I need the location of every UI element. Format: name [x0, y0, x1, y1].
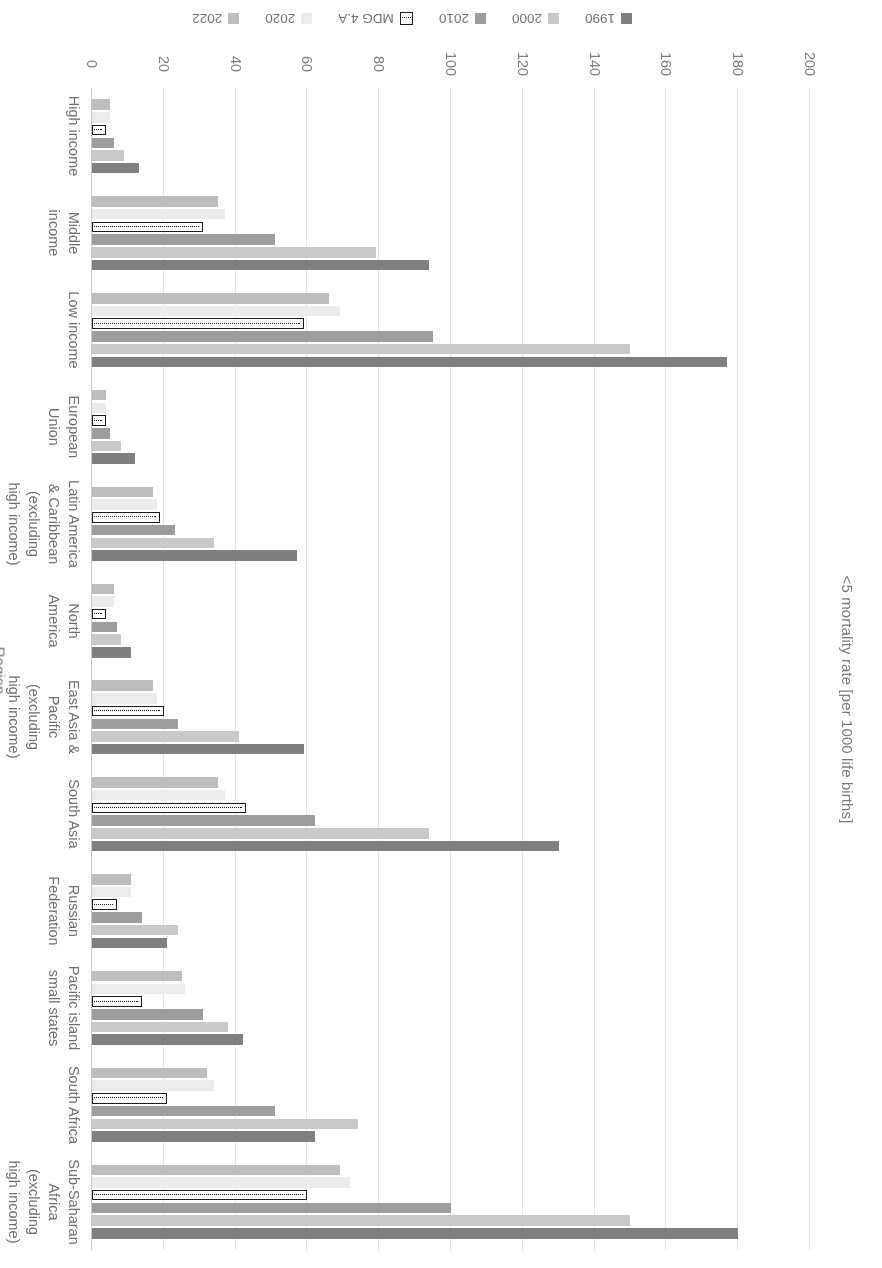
mdg-target-marker: [92, 415, 106, 426]
gridline: [450, 88, 451, 1250]
chart-canvas: <5 mortality rate [per 1000 life births]…: [0, 0, 882, 1268]
bar-2022: [92, 971, 182, 982]
mdg-dotted-line: [94, 710, 160, 711]
bar-1990: [92, 260, 429, 271]
legend-swatch-icon: [301, 13, 312, 24]
bar-2022: [92, 1068, 207, 1079]
legend-swatch-icon: [228, 13, 239, 24]
legend-item-2000[interactable]: 2000: [512, 11, 559, 26]
bar-2022: [92, 99, 110, 110]
mdg-target-marker: [92, 222, 203, 233]
bar-2000: [92, 731, 239, 742]
chart-legend: 199020002010MDG 4.A20202022: [192, 11, 632, 26]
bar-2022: [92, 680, 153, 691]
mdg-target-marker: [92, 1093, 167, 1104]
legend-label: 2020: [265, 11, 295, 26]
mdg-target-marker: [92, 609, 106, 620]
bar-2020: [92, 306, 340, 317]
bar-2000: [92, 1022, 228, 1033]
bar-2010: [92, 525, 175, 536]
bar-2010: [92, 234, 275, 245]
bar-2020: [92, 499, 157, 510]
rotated-chart-stage: <5 mortality rate [per 1000 life births]…: [0, 0, 882, 1268]
mdg-dotted-line: [94, 1097, 163, 1098]
bar-2020: [92, 1177, 350, 1188]
legend-item-1990[interactable]: 1990: [585, 11, 632, 26]
mdg-dotted-line: [94, 420, 102, 421]
mdg-target-marker: [92, 706, 164, 717]
gridline: [737, 88, 738, 1250]
legend-label: 2010: [439, 11, 469, 26]
bar-1990: [92, 1228, 738, 1239]
bar-2022: [92, 584, 114, 595]
value-axis-title: <5 mortality rate [per 1000 life births]: [840, 490, 857, 910]
bar-2010: [92, 622, 117, 633]
bar-2020: [92, 403, 106, 414]
bar-2020: [92, 790, 225, 801]
legend-item-2022[interactable]: 2022: [192, 11, 239, 26]
bar-2010: [92, 1106, 275, 1117]
mdg-dotted-line: [94, 516, 156, 517]
legend-label: 1990: [585, 11, 615, 26]
mdg-dotted-line: [94, 1001, 138, 1002]
gridline: [809, 88, 810, 1250]
value-tick-label: 0: [84, 44, 100, 84]
gridline: [665, 88, 666, 1250]
bar-2022: [92, 390, 106, 401]
value-tick-label: 100: [443, 44, 459, 84]
bar-2020: [92, 693, 157, 704]
bar-2000: [92, 634, 121, 645]
bar-1990: [92, 163, 139, 174]
bar-2010: [92, 815, 315, 826]
bar-2010: [92, 1009, 203, 1020]
bar-1990: [92, 647, 131, 658]
bar-1990: [92, 550, 297, 561]
value-tick-label: 180: [730, 44, 746, 84]
mdg-target-marker: [92, 512, 160, 523]
value-tick-label: 40: [228, 44, 244, 84]
bar-2022: [92, 777, 218, 788]
legend-item-2020[interactable]: 2020: [265, 11, 312, 26]
bar-2000: [92, 441, 121, 452]
bar-2020: [92, 1080, 214, 1091]
legend-swatch-icon: [548, 13, 559, 24]
bar-2000: [92, 1215, 631, 1226]
bar-1990: [92, 357, 727, 368]
gridline: [522, 88, 523, 1250]
bar-2000: [92, 538, 214, 549]
legend-label: 2022: [192, 11, 222, 26]
legend-item-mdg-4-a[interactable]: MDG 4.A: [338, 11, 413, 26]
bar-2022: [92, 196, 218, 207]
legend-swatch-icon: [621, 13, 632, 24]
bar-2010: [92, 138, 114, 149]
bar-2020: [92, 596, 114, 607]
bar-1990: [92, 453, 135, 464]
bar-2010: [92, 912, 142, 923]
bar-2000: [92, 828, 429, 839]
mdg-dotted-line: [94, 323, 300, 324]
bar-2000: [92, 925, 178, 936]
legend-swatch-icon: [475, 13, 486, 24]
mdg-dotted-line: [94, 807, 242, 808]
bar-2022: [92, 487, 153, 498]
bar-2020: [92, 112, 110, 123]
value-tick-label: 120: [515, 44, 531, 84]
legend-swatch-icon: [400, 12, 413, 25]
bar-2000: [92, 150, 124, 161]
mdg-dotted-line: [94, 904, 113, 905]
mdg-target-marker: [92, 899, 117, 910]
bar-2010: [92, 331, 433, 342]
bar-2000: [92, 344, 631, 355]
bar-1990: [92, 1131, 315, 1142]
value-tick-label: 160: [658, 44, 674, 84]
legend-label: MDG 4.A: [338, 11, 394, 26]
mdg-target-marker: [92, 125, 106, 136]
mdg-target-marker: [92, 1190, 307, 1201]
mdg-target-marker: [92, 318, 304, 329]
mdg-dotted-line: [94, 1194, 303, 1195]
category-label: High income: [64, 61, 84, 211]
bar-1990: [92, 841, 559, 852]
legend-item-2010[interactable]: 2010: [439, 11, 486, 26]
bar-2020: [92, 984, 185, 995]
value-tick-label: 80: [371, 44, 387, 84]
